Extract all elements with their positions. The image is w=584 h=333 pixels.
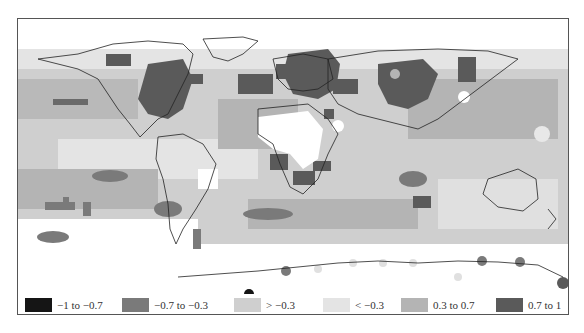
- legend-swatch: [25, 298, 52, 312]
- legend: −1 to −0.7 −0.7 to −0.3 > −0.3 < −0.3 0.…: [18, 297, 568, 313]
- legend-item-moderate-positive: 0.3 to 0.7: [401, 297, 475, 313]
- legend-label: −0.7 to −0.3: [154, 299, 208, 311]
- legend-label: < −0.3: [355, 299, 384, 311]
- legend-label: > −0.3: [266, 299, 295, 311]
- legend-item-strong-negative: −1 to −0.7: [25, 297, 103, 313]
- legend-item-weak-below: < −0.3: [323, 297, 384, 313]
- legend-label: 0.3 to 0.7: [433, 299, 475, 311]
- legend-label: 0.7 to 1: [528, 299, 561, 311]
- legend-label: −1 to −0.7: [57, 299, 103, 311]
- world-correlation-map: [18, 19, 568, 294]
- legend-swatch: [401, 298, 428, 312]
- map-figure: −1 to −0.7 −0.7 to −0.3 > −0.3 < −0.3 0.…: [17, 18, 569, 315]
- legend-swatch: [496, 298, 523, 312]
- legend-swatch: [323, 298, 350, 312]
- legend-swatch: [234, 298, 261, 312]
- legend-item-strong-positive: 0.7 to 1: [496, 297, 561, 313]
- legend-item-weak-above: > −0.3: [234, 297, 295, 313]
- legend-swatch: [122, 298, 149, 312]
- legend-item-moderate-negative: −0.7 to −0.3: [122, 297, 208, 313]
